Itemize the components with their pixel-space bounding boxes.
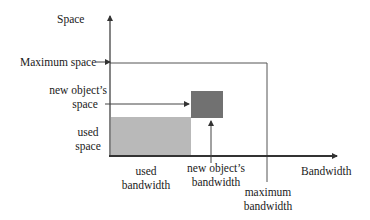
used-bandwidth-label-1: used (135, 165, 156, 177)
maximum-bandwidth-label-1: maximum (245, 186, 292, 198)
space-bandwidth-diagram: Space Bandwidth Maximum space new object… (0, 0, 370, 220)
new-object-space-label-1: new object’s (49, 84, 107, 97)
new-object-bandwidth-label-2: bandwidth (192, 176, 241, 188)
maximum-space-label: Maximum space (20, 56, 96, 69)
maximum-bandwidth-label-2: bandwidth (244, 200, 293, 212)
y-axis-label: Space (57, 13, 84, 26)
used-bandwidth-label-2: bandwidth (122, 179, 171, 191)
x-axis-label: Bandwidth (301, 165, 352, 177)
used-space-label-1: used (77, 126, 98, 138)
new-object-space-label-2: space (72, 98, 98, 111)
new-object-bandwidth-label-1: new object’s (187, 162, 245, 175)
new-object-region (191, 91, 223, 118)
used-space-label-2: space (75, 140, 101, 153)
used-region (111, 117, 191, 155)
